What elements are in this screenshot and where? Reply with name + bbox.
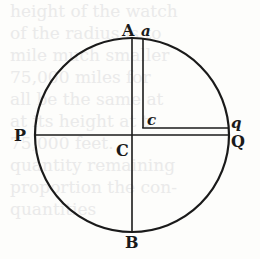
diagram-canvas: height of the watch of the radius is to …: [0, 0, 260, 259]
circle-figure: A a P C c q Q B: [0, 0, 260, 259]
label-Q: Q: [231, 132, 245, 151]
label-P: P: [14, 126, 26, 145]
label-A: A: [121, 21, 135, 40]
label-C: C: [116, 141, 129, 160]
label-a: a: [141, 22, 151, 40]
label-q: q: [231, 114, 242, 132]
label-c: c: [147, 111, 156, 129]
label-B: B: [125, 233, 139, 252]
